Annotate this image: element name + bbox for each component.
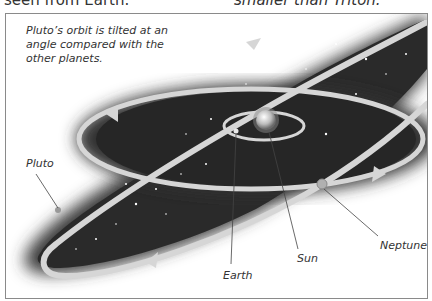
diagram-frame: Pluto’s orbit is tilted at an angle comp… [5,13,428,299]
previous-text-fragment-left: seen from Earth. [4,0,129,9]
pluto-label: Pluto [26,157,54,170]
sun-icon [253,107,279,133]
diagram-caption: Pluto’s orbit is tilted at an angle comp… [26,24,186,66]
previous-text-fragment-right: smaller than Triton. [234,0,381,9]
neptune-label: Neptune [380,239,427,252]
neptune-icon [317,179,327,189]
sun-label: Sun [297,252,318,265]
orbit-arrow [246,38,261,50]
earth-icon [234,129,239,134]
earth-label: Earth [223,269,253,282]
